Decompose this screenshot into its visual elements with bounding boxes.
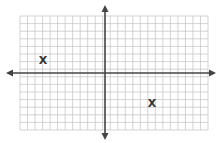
x-axis-left-arrow-icon (6, 70, 13, 77)
x-axis (6, 70, 216, 77)
x-axis-right-arrow-icon (209, 70, 216, 77)
y-axis-up-arrow-icon (102, 5, 109, 12)
point-marker-1: X (39, 55, 47, 66)
coordinate-grid (0, 0, 221, 143)
point-marker-2: X (148, 98, 156, 109)
y-axis-down-arrow-icon (102, 133, 109, 140)
